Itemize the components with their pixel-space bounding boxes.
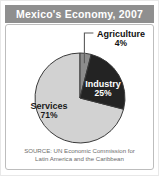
agriculture-label-value: 4% — [88, 39, 154, 49]
slice-label-agriculture: Agriculture 4% — [88, 29, 154, 49]
services-label-value: 71% — [25, 111, 73, 121]
slice-label-industry: Industry 25% — [80, 79, 126, 99]
chart-title: Mexico's Economy, 2007 — [16, 9, 143, 20]
source-note: SOURCE: UN Economic Commission for Latin… — [9, 147, 150, 163]
pie-chart-figure: Mexico's Economy, 2007 Agriculture 4% In… — [0, 0, 159, 176]
industry-label-value: 25% — [80, 89, 126, 99]
slice-label-services: Services 71% — [25, 101, 73, 121]
chart-title-bar: Mexico's Economy, 2007 — [5, 5, 154, 23]
source-line-1: SOURCE: UN Economic Commission for — [9, 147, 150, 155]
source-line-2: Latin America and the Caribbean — [9, 155, 150, 163]
